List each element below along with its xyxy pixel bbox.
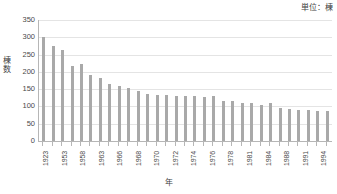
y-axis-tick-label: 350 <box>13 16 35 24</box>
bar-slot <box>124 20 133 141</box>
bar <box>42 37 45 141</box>
x-label-slot: 1972 <box>168 147 183 173</box>
y-axis-tick-label: 300 <box>13 33 35 41</box>
bar-slot <box>162 20 171 141</box>
bar-slot <box>134 20 143 141</box>
plot-area <box>38 20 332 142</box>
bar <box>307 110 310 141</box>
bar <box>326 111 329 141</box>
x-label-slot: 1963 <box>94 147 109 173</box>
x-tick-slot <box>38 142 47 146</box>
bar-slot <box>266 20 275 141</box>
bar <box>52 46 55 141</box>
bar <box>203 97 206 141</box>
y-axis-tick-label: 150 <box>13 85 35 93</box>
x-label-slot: 1953 <box>57 147 72 173</box>
x-tick-slot <box>161 142 170 146</box>
x-axis-tick-label: 1963 <box>98 151 105 166</box>
x-tick-slot <box>208 142 217 146</box>
x-axis-ticks <box>38 142 331 146</box>
x-label-slot: 1991 <box>298 147 313 173</box>
x-axis-tick-mark <box>279 142 280 146</box>
x-label-slot: 1976 <box>205 147 220 173</box>
bar <box>80 64 83 141</box>
x-axis-tick-mark <box>165 142 166 146</box>
x-label-slot: 1970 <box>149 147 164 173</box>
bar-series <box>39 20 332 141</box>
x-axis-tick-mark <box>71 142 72 146</box>
bar <box>241 103 244 141</box>
bar-slot <box>48 20 57 141</box>
bar <box>165 95 168 141</box>
x-tick-slot <box>66 142 75 146</box>
bar-slot <box>86 20 95 141</box>
x-axis-title: 年 <box>0 176 337 187</box>
bar <box>89 75 92 141</box>
x-axis-tick-label: 1978 <box>227 151 234 166</box>
bar <box>61 50 64 141</box>
x-axis-tick-mark <box>137 142 138 146</box>
x-axis-tick-mark <box>241 142 242 146</box>
x-axis-tick-mark <box>222 142 223 146</box>
x-axis-tick-label: 1994 <box>320 151 327 166</box>
x-axis-tick-label: 1981 <box>246 151 253 166</box>
bar-chart: 単位：棟 棟 数 350300250200150100500 192319531… <box>0 0 337 194</box>
x-tick-slot <box>114 142 123 146</box>
x-axis-tick-mark <box>52 142 53 146</box>
bar-slot <box>181 20 190 141</box>
x-tick-slot <box>76 142 85 146</box>
x-tick-slot <box>218 142 227 146</box>
bar <box>231 101 234 141</box>
bar-slot <box>200 20 209 141</box>
x-axis-tick-mark <box>61 142 62 146</box>
bar-slot <box>96 20 105 141</box>
bar <box>222 101 225 141</box>
x-tick-slot <box>47 142 56 146</box>
x-axis-tick-label: 1923 <box>42 151 49 166</box>
x-label-slot: 1968 <box>131 147 146 173</box>
bar <box>316 111 319 141</box>
x-tick-slot <box>104 142 113 146</box>
bar-slot <box>285 20 294 141</box>
bar-slot <box>152 20 161 141</box>
bar <box>260 105 263 141</box>
bar-slot <box>67 20 76 141</box>
x-tick-slot <box>312 142 321 146</box>
x-tick-slot <box>199 142 208 146</box>
bar <box>212 96 215 141</box>
x-tick-slot <box>246 142 255 146</box>
x-label-slot: 1984 <box>261 147 276 173</box>
x-label-slot: 1966 <box>112 147 127 173</box>
x-axis-tick-mark <box>316 142 317 146</box>
x-axis-tick-mark <box>89 142 90 146</box>
bar-slot <box>190 20 199 141</box>
x-axis-tick-label: 1974 <box>190 151 197 166</box>
x-tick-slot <box>322 142 331 146</box>
bar <box>156 95 159 141</box>
x-axis-tick-mark <box>307 142 308 146</box>
bar <box>71 66 74 141</box>
x-axis-tick-labels: 1923195319581963196619681970197219741976… <box>38 147 331 173</box>
x-tick-slot <box>95 142 104 146</box>
x-axis-tick-label: 1972 <box>172 151 179 166</box>
bar <box>99 78 102 141</box>
bar <box>184 96 187 141</box>
bar <box>137 91 140 141</box>
bar <box>288 109 291 141</box>
x-axis-tick-mark <box>212 142 213 146</box>
x-tick-slot <box>170 142 179 146</box>
bar <box>279 108 282 141</box>
x-axis-tick-label: 1968 <box>135 151 142 166</box>
x-axis-tick-mark <box>260 142 261 146</box>
x-axis-tick-mark <box>184 142 185 146</box>
bar-slot <box>313 20 322 141</box>
x-axis-tick-mark <box>269 142 270 146</box>
x-axis-tick-mark <box>146 142 147 146</box>
x-axis-tick-mark <box>175 142 176 146</box>
x-axis-tick-mark <box>127 142 128 146</box>
x-axis-tick-mark <box>203 142 204 146</box>
x-tick-slot <box>133 142 142 146</box>
y-axis-tick-label: 200 <box>13 68 35 76</box>
x-axis-tick-label: 1984 <box>264 151 271 166</box>
y-axis-tick-label: 100 <box>13 102 35 110</box>
